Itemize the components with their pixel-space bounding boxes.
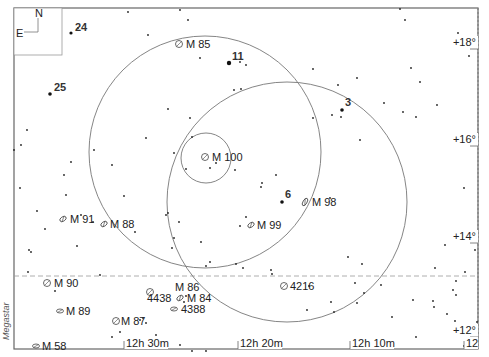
galaxy-label: 4216 bbox=[290, 280, 314, 292]
star bbox=[165, 214, 167, 216]
star bbox=[261, 182, 263, 184]
star bbox=[205, 265, 207, 267]
star bbox=[209, 167, 211, 169]
star bbox=[347, 256, 349, 258]
star bbox=[242, 267, 244, 269]
star bbox=[455, 280, 457, 282]
star bbox=[134, 231, 136, 233]
star bbox=[245, 216, 247, 218]
star bbox=[185, 168, 187, 170]
star bbox=[245, 64, 247, 66]
star bbox=[452, 289, 454, 291]
star bbox=[240, 88, 242, 90]
star bbox=[412, 299, 414, 301]
star bbox=[167, 108, 169, 110]
star-label: 25 bbox=[54, 81, 66, 93]
star bbox=[199, 57, 201, 59]
star bbox=[306, 309, 308, 311]
star bbox=[171, 247, 173, 249]
star bbox=[233, 89, 235, 91]
star bbox=[361, 263, 363, 265]
star bbox=[70, 161, 72, 163]
star bbox=[446, 313, 448, 315]
star bbox=[191, 136, 193, 138]
star bbox=[173, 237, 175, 239]
star bbox=[271, 273, 273, 275]
star bbox=[455, 294, 457, 296]
star bbox=[275, 174, 277, 176]
star bbox=[419, 81, 421, 83]
named-star bbox=[227, 61, 231, 65]
star-label: 11 bbox=[232, 50, 244, 62]
star bbox=[111, 164, 113, 166]
star bbox=[119, 331, 121, 333]
credit-label: Megastar bbox=[1, 301, 11, 340]
galaxy-label: M 90 bbox=[54, 277, 78, 289]
star bbox=[404, 19, 406, 21]
star bbox=[356, 302, 358, 304]
galaxy-label: 4438 bbox=[147, 292, 171, 304]
star bbox=[147, 34, 149, 36]
galaxy-label: M 58 bbox=[42, 340, 66, 352]
chart-frame bbox=[14, 8, 478, 349]
galaxy-label: M 99 bbox=[257, 219, 281, 231]
star bbox=[179, 344, 181, 346]
star bbox=[331, 114, 333, 116]
compass-north-label: N bbox=[35, 7, 43, 19]
star bbox=[354, 282, 356, 284]
named-star bbox=[340, 108, 344, 112]
star bbox=[432, 300, 434, 302]
dec-label: +14° bbox=[453, 230, 476, 242]
galaxy-4438[interactable]: 4438 bbox=[147, 292, 171, 304]
galaxy-label: M 91 bbox=[70, 213, 94, 225]
galaxy-label: M 89 bbox=[66, 305, 90, 317]
star bbox=[474, 249, 476, 251]
star-label: 6 bbox=[285, 188, 291, 200]
named-star bbox=[48, 92, 52, 96]
star-chart: N E 24251136 M 85M 100M 98M 99M 91M 88M … bbox=[0, 0, 489, 357]
star bbox=[383, 102, 385, 104]
galaxy-label: M 88 bbox=[110, 218, 134, 230]
star bbox=[209, 261, 211, 263]
star bbox=[356, 77, 358, 79]
star bbox=[391, 316, 393, 318]
star bbox=[19, 187, 21, 189]
star bbox=[123, 195, 125, 197]
star bbox=[167, 212, 169, 214]
star bbox=[111, 336, 113, 338]
star bbox=[436, 104, 438, 106]
star bbox=[340, 116, 342, 118]
star bbox=[312, 68, 314, 70]
named-star bbox=[280, 200, 284, 204]
star bbox=[145, 137, 147, 139]
star bbox=[468, 55, 470, 57]
named-star bbox=[69, 31, 72, 34]
galaxy-label: M 98 bbox=[312, 196, 336, 208]
star bbox=[27, 271, 29, 273]
star bbox=[13, 149, 15, 151]
ra-label: 12h 10m bbox=[352, 337, 395, 349]
star bbox=[270, 269, 272, 271]
star bbox=[30, 251, 32, 253]
star bbox=[205, 350, 207, 352]
star bbox=[173, 152, 175, 154]
star bbox=[434, 267, 436, 269]
star bbox=[359, 139, 361, 141]
star bbox=[363, 292, 365, 294]
star bbox=[380, 284, 382, 286]
star bbox=[76, 245, 78, 247]
dec-label: +16° bbox=[453, 133, 476, 145]
ra-label: 12h 20m bbox=[240, 337, 283, 349]
star-label: 3 bbox=[345, 96, 351, 108]
star bbox=[457, 32, 459, 34]
star bbox=[54, 290, 56, 292]
star bbox=[399, 8, 401, 10]
galaxy-label: 4388 bbox=[181, 303, 205, 315]
compass-rose: N E bbox=[14, 7, 62, 55]
star bbox=[36, 210, 38, 212]
star bbox=[312, 117, 314, 119]
star bbox=[20, 144, 22, 146]
star bbox=[191, 350, 193, 352]
star bbox=[235, 263, 237, 265]
dec-label: +18° bbox=[453, 36, 476, 48]
